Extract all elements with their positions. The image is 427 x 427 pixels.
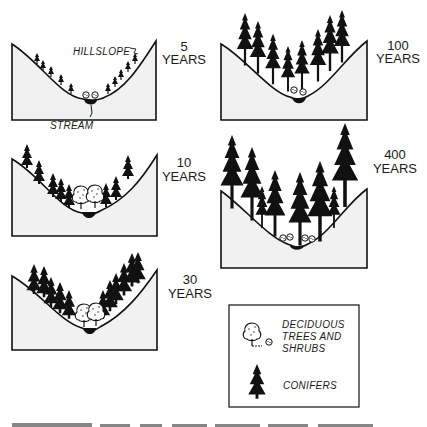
age-unit: YEARS bbox=[168, 286, 212, 301]
cropped-caption bbox=[12, 423, 373, 427]
age-unit: YEARS bbox=[373, 161, 417, 176]
panel-30-years: 30 YEARS bbox=[12, 252, 212, 350]
succession-diagram: HILLSLOPE STREAM 5 YEARS 10 YEARS bbox=[0, 0, 427, 427]
age-number: 30 bbox=[183, 272, 197, 287]
panel-10-years: 10 YEARS bbox=[12, 144, 206, 236]
deciduous-thicket bbox=[72, 185, 103, 209]
legend-deciduous-line3: SHRUBS bbox=[282, 343, 326, 354]
age-unit: YEARS bbox=[162, 52, 206, 67]
deciduous-trees bbox=[75, 303, 104, 327]
valley-profile bbox=[221, 41, 367, 120]
age-number: 10 bbox=[177, 155, 191, 170]
panel-5-years: HILLSLOPE STREAM 5 YEARS bbox=[12, 39, 206, 131]
age-number: 400 bbox=[384, 147, 406, 162]
panel-400-years: 400 YEARS bbox=[220, 123, 417, 268]
legend-conifers: CONIFERS bbox=[283, 380, 337, 391]
age-unit: YEARS bbox=[162, 169, 206, 184]
panel-100-years: 100 YEARS bbox=[221, 10, 420, 120]
hillslope-label: HILLSLOPE bbox=[73, 46, 130, 57]
age-unit: YEARS bbox=[376, 51, 420, 66]
stream-label: STREAM bbox=[50, 120, 94, 131]
legend-deciduous-line2: TREES AND bbox=[282, 331, 342, 342]
legend: DECIDUOUS TREES AND SHRUBS CONIFERS bbox=[229, 305, 359, 407]
hillslope-pointer bbox=[130, 48, 138, 54]
legend-deciduous-line1: DECIDUOUS bbox=[282, 319, 345, 330]
